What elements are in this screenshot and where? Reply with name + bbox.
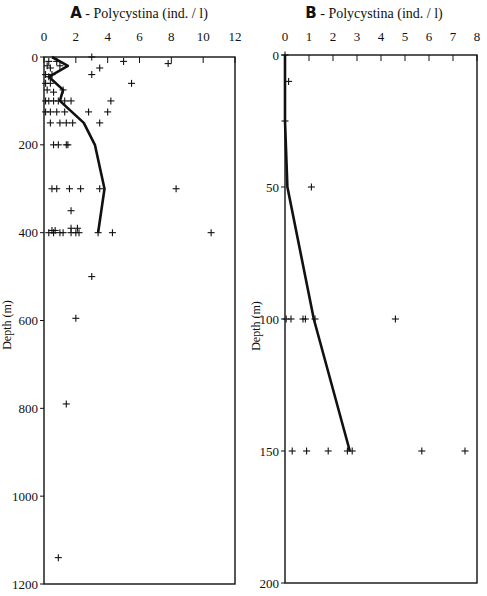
- panel-b: B - Polycystina (ind. / l) 012345678 050…: [249, 4, 480, 591]
- panel-a-plot-frame: [44, 57, 235, 584]
- panel-a-y-ticks: 020040060080010001200: [12, 50, 44, 592]
- panel-a-y-axis-label: Depth (m): [0, 300, 14, 350]
- scatter-point: [85, 108, 92, 115]
- scatter-point: [74, 225, 81, 232]
- x-tick-label: 10: [197, 29, 210, 44]
- scatter-point: [96, 64, 103, 71]
- scatter-point: [55, 554, 62, 561]
- y-tick-label: 200: [19, 137, 39, 152]
- scatter-point: [208, 229, 215, 236]
- x-tick-label: 5: [402, 29, 409, 44]
- scatter-point: [88, 273, 95, 280]
- scatter-point: [96, 185, 103, 192]
- scatter-point: [66, 185, 73, 192]
- x-tick-label: 6: [136, 29, 143, 44]
- scatter-point: [88, 54, 95, 61]
- scatter-point: [120, 58, 127, 65]
- x-tick-label: 4: [104, 29, 111, 44]
- y-tick-label: 200: [260, 576, 280, 591]
- panel-b-letter: B: [305, 4, 316, 22]
- x-tick-label: 7: [450, 29, 457, 44]
- panel-a-scatter-points: [42, 54, 215, 562]
- scatter-point: [104, 108, 111, 115]
- x-tick-label: 2: [330, 29, 337, 44]
- scatter-point: [325, 448, 332, 455]
- panel-b-scatter-points: [282, 52, 469, 455]
- panel-b-x-ticks: 012345678: [282, 29, 481, 61]
- scatter-point: [53, 185, 60, 192]
- scatter-point: [68, 225, 75, 232]
- x-tick-label: 8: [474, 29, 481, 44]
- y-tick-label: 600: [19, 313, 39, 328]
- scatter-point: [63, 400, 70, 407]
- scatter-point: [64, 141, 71, 148]
- scatter-point: [107, 97, 114, 104]
- x-tick-label: 3: [354, 29, 361, 44]
- scatter-point: [68, 97, 75, 104]
- scatter-point: [77, 185, 84, 192]
- y-tick-label: 1200: [12, 577, 38, 592]
- scatter-point: [50, 89, 57, 96]
- y-tick-label: 0: [32, 50, 39, 65]
- x-tick-label: 1: [306, 29, 313, 44]
- scatter-point: [96, 119, 103, 126]
- scatter-point: [56, 119, 63, 126]
- scatter-point: [462, 448, 469, 455]
- scatter-point: [47, 119, 54, 126]
- panel-b-title: B - Polycystina (ind. / l): [305, 4, 443, 22]
- y-tick-label: 1000: [12, 489, 38, 504]
- scatter-point: [88, 71, 95, 78]
- panel-b-y-axis-label: Depth (m): [249, 301, 263, 351]
- panel-a-title-dash: -: [85, 6, 93, 21]
- y-tick-label: 800: [19, 401, 39, 416]
- scatter-point: [53, 108, 60, 115]
- panel-a-title: A - Polycystina (ind. / l): [70, 4, 208, 22]
- y-tick-label: 150: [260, 444, 280, 459]
- scatter-point: [45, 58, 52, 65]
- scatter-point: [289, 448, 296, 455]
- x-tick-label: 8: [168, 29, 175, 44]
- scatter-point: [47, 108, 54, 115]
- scatter-point: [44, 86, 51, 93]
- panel-b-title-dash: -: [320, 6, 328, 21]
- panel-b-profile-line: [285, 55, 350, 451]
- x-tick-label: 0: [41, 29, 48, 44]
- scatter-point: [308, 184, 315, 191]
- scatter-point: [418, 448, 425, 455]
- x-tick-label: 12: [229, 29, 242, 44]
- scatter-point: [69, 119, 76, 126]
- scatter-point: [128, 80, 135, 87]
- panel-a-letter: A: [70, 4, 82, 22]
- panel-a: A - Polycystina (ind. / l) 024681012 020…: [0, 4, 242, 592]
- panel-a-title-text: Polycystina (ind. / l): [93, 6, 208, 22]
- scatter-point: [392, 316, 399, 323]
- y-tick-label: 50: [266, 180, 279, 195]
- panel-b-title-text: Polycystina (ind. / l): [328, 6, 443, 22]
- x-tick-label: 6: [426, 29, 433, 44]
- scatter-point: [173, 185, 180, 192]
- scatter-point: [68, 207, 75, 214]
- x-tick-label: 2: [73, 29, 80, 44]
- scatter-point: [60, 229, 67, 236]
- chart-figure: A - Polycystina (ind. / l) 024681012 020…: [0, 0, 487, 596]
- scatter-point: [63, 119, 70, 126]
- y-tick-label: 0: [273, 48, 280, 63]
- x-tick-label: 0: [282, 29, 289, 44]
- scatter-point: [109, 229, 116, 236]
- scatter-point: [61, 108, 68, 115]
- y-tick-label: 400: [19, 225, 39, 240]
- panel-a-x-ticks: 024681012: [41, 29, 242, 63]
- x-tick-label: 4: [378, 29, 385, 44]
- scatter-point: [165, 60, 172, 67]
- scatter-point: [288, 316, 295, 323]
- panel-b-y-ticks: 050100150200: [260, 48, 286, 591]
- scatter-point: [303, 448, 310, 455]
- scatter-point: [55, 141, 62, 148]
- scatter-point: [76, 229, 83, 236]
- scatter-point: [72, 315, 79, 322]
